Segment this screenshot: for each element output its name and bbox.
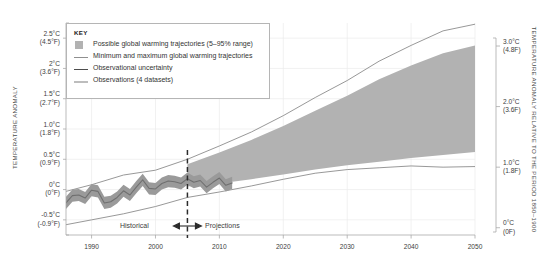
legend-title: KEY	[74, 29, 262, 36]
left-tick-label: 1.5°C(2.7°F)	[18, 90, 60, 106]
right-axis-bracket	[493, 38, 496, 232]
projections-label: Projections	[205, 222, 240, 229]
legend-line-icon	[74, 78, 88, 85]
legend-item-label: Observational uncertainty	[93, 63, 172, 72]
legend-line-icon	[74, 66, 88, 73]
legend-item[interactable]: Possible global warming trajectories (5–…	[74, 39, 262, 49]
legend-items: Possible global warming trajectories (5–…	[74, 39, 262, 85]
legend-swatch-icon	[74, 42, 88, 49]
x-tick-label: 2040	[391, 243, 431, 250]
left-tick-label: 2.5°C(4.5°F)	[18, 30, 60, 46]
left-tick-label: 0.5°C(0.9°F)	[18, 151, 60, 167]
right-tick-label: 3.0°C(4.8F)	[503, 38, 545, 54]
right-tick-label: 2.0°C(3.6F)	[503, 98, 545, 114]
x-tick-label: 2030	[327, 243, 367, 250]
x-tick-label: 2050	[455, 243, 495, 250]
right-tick-label: 0°C(0F)	[503, 219, 545, 235]
legend-line-icon	[74, 54, 88, 61]
legend-item[interactable]: Minimum and maximum global warming traje…	[74, 51, 262, 61]
climate-projection-chart: TEMPERATURE ANOMALY TEMPERATURE ANOMALY …	[0, 0, 553, 270]
right-tick-label: 1.0°C(1.8F)	[503, 159, 545, 175]
legend-item-label: Possible global warming trajectories (5–…	[93, 39, 253, 48]
x-tick-label: 2000	[135, 243, 175, 250]
legend-item-label: Observations (4 datasets)	[93, 75, 173, 84]
legend-item[interactable]: Observations (4 datasets)	[74, 75, 262, 85]
legend-item-label: Minimum and maximum global warming traje…	[93, 51, 253, 60]
historical-label: Historical	[120, 222, 149, 229]
left-tick-label: -0.5°C(-0.9°F)	[18, 211, 60, 227]
x-tick-label: 2010	[199, 243, 239, 250]
x-tick-label: 1990	[72, 243, 112, 250]
x-tick-label: 2020	[263, 243, 303, 250]
legend: KEY Possible global warming trajectories…	[66, 23, 270, 99]
left-tick-label: 1.0°C(1.8°F)	[18, 121, 60, 137]
left-tick-label: 0°C(0°F)	[18, 181, 60, 197]
left-tick-label: 2°C(3.6°F)	[18, 60, 60, 76]
legend-item[interactable]: Observational uncertainty	[74, 63, 262, 73]
